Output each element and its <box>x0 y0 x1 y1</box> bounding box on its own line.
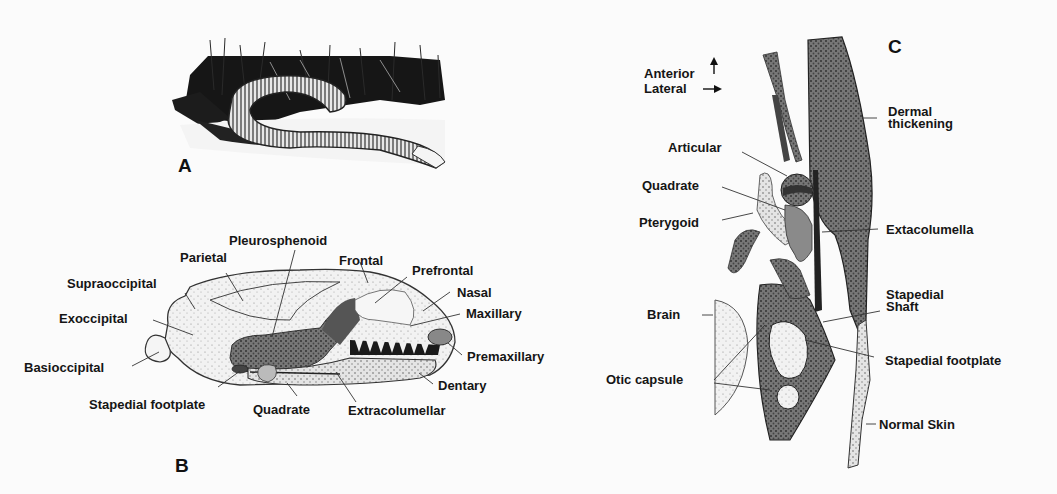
label-quadrate-c: Quadrate <box>642 179 699 192</box>
label-otic-capsule: Otic capsule <box>606 373 683 386</box>
label-anterior: Anterior <box>644 67 695 80</box>
label-dermal-thickening: Dermal thickening <box>888 106 953 130</box>
orientation-arrows <box>703 57 722 93</box>
quadrate-c-shape <box>785 205 812 261</box>
label-extacolumella: Extacolumella <box>886 223 973 236</box>
label-articular: Articular <box>668 141 721 154</box>
label-stapedial-footplate-c: Stapedial footplate <box>885 354 1001 367</box>
label-normal-skin: Normal Skin <box>879 418 955 431</box>
panel-c-letter: C <box>888 36 902 58</box>
label-brain: Brain <box>647 308 680 321</box>
label-pterygoid: Pterygoid <box>639 216 699 229</box>
label-stapedial-shaft: Stapedial Shaft <box>886 289 944 313</box>
label-lateral: Lateral <box>644 82 687 95</box>
brain-shape <box>715 300 748 415</box>
normal-skin-shape <box>848 320 870 468</box>
